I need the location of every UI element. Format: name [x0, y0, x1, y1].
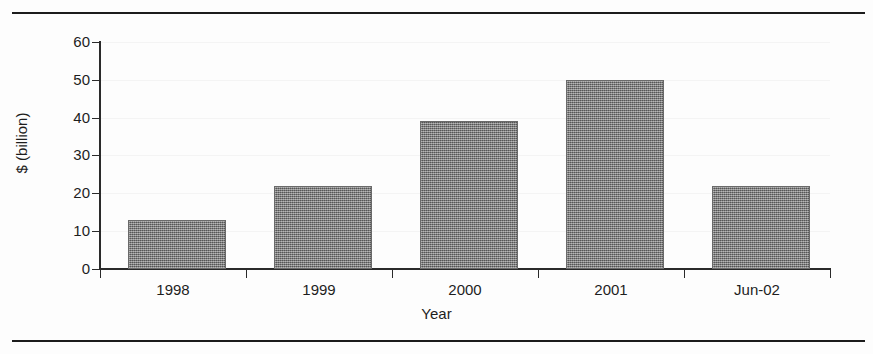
y-axis-label-10: 10: [42, 223, 90, 238]
y-axis-tick-30: [92, 155, 100, 156]
bar-2001[interactable]: [566, 80, 664, 269]
x-axis-category-label-1998: 1998: [100, 282, 246, 298]
x-axis-category-label-2000: 2000: [392, 282, 538, 298]
y-axis-label-30: 30: [42, 147, 90, 162]
x-axis-title: Year: [0, 306, 873, 322]
y-axis-label-50-wrap: 50: [34, 72, 90, 87]
y-axis-label-60-wrap: 60: [34, 34, 90, 49]
x-axis-tick-3: [538, 269, 539, 278]
bar-1998[interactable]: [128, 220, 226, 269]
y-axis-label-20: 20: [42, 185, 90, 200]
y-axis-label-60: 60: [42, 34, 90, 49]
x-axis-category-label-jun-02: Jun-02: [684, 282, 830, 298]
plot-area: [100, 42, 830, 269]
y-axis-label-30-wrap: 30: [34, 147, 90, 162]
bar-chart: 60 50 40 30 20 10 0: [0, 20, 873, 335]
x-axis-tick-1: [246, 269, 247, 278]
x-axis-category-label-1999: 1999: [246, 282, 392, 298]
y-axis-title: $ (billion): [14, 83, 30, 203]
y-axis-label-20-wrap: 20: [34, 185, 90, 200]
x-axis-category-label-2001: 2001: [538, 282, 684, 298]
y-axis-tick-0: [92, 269, 100, 270]
x-axis-tick-5: [830, 269, 831, 278]
top-horizontal-rule: [12, 12, 865, 14]
x-axis-tick-2: [392, 269, 393, 278]
x-axis-tick-4: [684, 269, 685, 278]
y-axis-tick-60: [92, 42, 100, 43]
bar-jun-02[interactable]: [712, 186, 810, 269]
y-axis-label-0: 0: [42, 261, 90, 276]
y-axis-tick-50: [92, 80, 100, 81]
y-axis-label-40: 40: [42, 110, 90, 125]
y-axis-label-0-wrap: 0: [34, 261, 90, 276]
y-axis-label-50: 50: [42, 72, 90, 87]
y-axis-label-10-wrap: 10: [34, 223, 90, 238]
y-axis-tick-20: [92, 193, 100, 194]
y-axis-tick-10: [92, 231, 100, 232]
bar-2000[interactable]: [420, 121, 518, 269]
bottom-horizontal-rule: [12, 340, 865, 342]
y-axis-label-40-wrap: 40: [34, 110, 90, 125]
y-axis-tick-40: [92, 118, 100, 119]
bar-1999[interactable]: [274, 186, 372, 269]
figure-container: 60 50 40 30 20 10 0: [0, 0, 873, 354]
x-axis-tick-0: [100, 269, 101, 278]
